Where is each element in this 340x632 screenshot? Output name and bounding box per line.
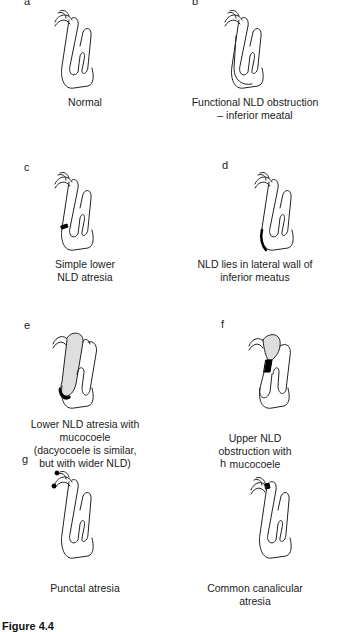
nasolacrimal-diagram-upper-obstruction-mucocoele (246, 326, 296, 411)
panel-c: c Simple lower NLD atresia (0, 140, 170, 290)
panel-letter: c (24, 161, 30, 173)
nasolacrimal-diagram-common-canalicular-atresia (248, 464, 298, 564)
panel-caption: Common canalicular atresia (170, 582, 340, 608)
panel-a: a Normal (0, 0, 170, 140)
panel-caption: NLD lies in lateral wall of inferior mea… (170, 258, 340, 284)
nasolacrimal-diagram-simple-lower-atresia (50, 168, 100, 253)
nasolacrimal-diagram-functional-obstruction (220, 6, 270, 91)
panel-g: g Punctal atresia (0, 440, 170, 590)
panel-letter: b (192, 0, 198, 7)
nasolacrimal-diagram-lateral-wall (250, 168, 300, 253)
panel-b: b Functional NLD obstruction – inferior … (170, 0, 340, 140)
panel-h: h Common canalicular atresia (170, 440, 340, 590)
nasolacrimal-diagram-lower-atresia-mucocoele (50, 326, 100, 411)
nasolacrimal-diagram-normal (50, 6, 100, 91)
figure-label: Figure 4.4 (2, 620, 54, 632)
panel-caption: Punctal atresia (0, 582, 170, 595)
panel-letter: f (221, 318, 224, 330)
panel-caption: Simple lower NLD atresia (0, 258, 170, 284)
panel-caption: Normal (0, 96, 170, 109)
panel-d: d NLD lies in lateral wall of inferior m… (170, 140, 340, 290)
panel-letter: d (222, 159, 228, 171)
nasolacrimal-diagram-punctal-atresia (50, 464, 100, 564)
panel-letter: g (22, 453, 28, 465)
panel-caption: Functional NLD obstruction – inferior me… (170, 96, 340, 122)
panel-letter: e (24, 319, 30, 331)
panel-e: e Lower NLD atresia with mucocoele (dacy… (0, 290, 170, 440)
panel-letter: h (220, 457, 226, 469)
panel-letter: a (24, 0, 30, 7)
panel-f: f Upper NLD obstruction with mucocoele (170, 290, 340, 440)
